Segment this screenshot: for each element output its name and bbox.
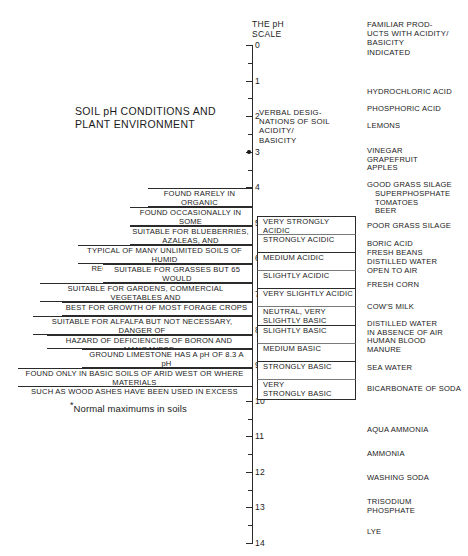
familiar-product-entry: FRESH CORN (367, 281, 419, 290)
verbal-designation-box: VERY STRONGLY ACIDIC (257, 216, 356, 234)
soil-condition-block: SUITABLE FOR GARDENS, COMMERCIAL VEGETAB… (40, 283, 252, 302)
familiar-product-entry: DISTILLED WATER IN ABSENCE OF AIR (367, 320, 443, 337)
familiar-product-entry: LYE (367, 528, 381, 537)
familiar-product-entry: SEA WATER (367, 364, 412, 373)
footnote: *Normal maximums in soils (70, 400, 187, 414)
ph-axis-line (252, 45, 253, 544)
familiar-products-column: HYDROCHLORIC ACIDPHOSPHORIC ACIDLEMONSVI… (367, 0, 468, 556)
verbal-designation-box: NEUTRAL, VERY SLIGHTLY BASIC (257, 306, 356, 325)
verbal-designation-box: STRONGLY BASIC (257, 361, 356, 379)
soil-conditions-column: FOUND RARELY IN ORGANIC SOIL SURFACE LAY… (0, 0, 252, 556)
familiar-product-entry: DISTILLED WATER OPEN TO AIR (367, 258, 437, 275)
familiar-product-entry: COW'S MILK (367, 303, 414, 312)
ph-scale-diagram: SOIL pH CONDITIONS AND PLANT ENVIRONMENT… (0, 0, 468, 556)
familiar-product-entry: WASHING SODA (367, 474, 429, 483)
soil-condition-block: SUITABLE FOR BLUEBERRIES, AZALEAS, AND R… (130, 226, 252, 245)
soil-condition-block: HAZARD OF DEFICIENCIES OF BORON AND MANG… (47, 335, 252, 349)
familiar-product-entry: BICARBONATE OF SODA (367, 385, 461, 394)
soil-condition-block: TYPICAL OF MANY UNLIMITED SOILS OF HUMID… (78, 245, 252, 264)
soil-condition-block: GROUND LIMESTONE HAS A pH OF 8.3 A pH AB… (82, 349, 252, 368)
familiar-product-entry: AQUA AMMONIA (367, 426, 428, 435)
familiar-product-entry: HYDROCHLORIC ACID (367, 88, 452, 97)
familiar-product-entry: TRISODIUM PHOSPHATE (367, 498, 415, 515)
familiar-product-entry: LEMONS (367, 122, 400, 131)
familiar-product-entry: AMMONIA (367, 450, 405, 459)
verbal-designation-box: MEDIUM BASIC (257, 343, 356, 361)
verbal-designation-box: STRONGLY ACIDIC (257, 234, 356, 252)
verbal-designation-box: SLIGHTLY BASIC (257, 325, 356, 343)
soil-condition-block: FOUND OCCASIONALLY IN SOME SOILS IN HUMI… (130, 207, 252, 226)
familiar-product-entry: SUPERPHOSPHATE TOMATOES BEER (367, 190, 450, 216)
verbal-designation-box: SLIGHTLY ACIDIC (257, 270, 356, 288)
familiar-product-entry: MANURE (367, 346, 401, 355)
familiar-product-entry: BORIC ACID FRESH BEANS (367, 240, 423, 257)
soil-condition-block: SUITABLE FOR GRASSES BUT 65 WOULD BE BET… (103, 264, 252, 283)
soil-condition-block: BEST FOR GROWTH OF MOST FORAGE CROPS (62, 302, 252, 316)
verbal-designation-box: VERY SLIGHTLY ACIDIC (257, 288, 356, 306)
verbal-designation-box: VERY STRONGLY BASIC (257, 379, 356, 400)
soil-condition-block: FOUND ONLY IN BASIC SOILS OF ARID WEST O… (18, 368, 252, 387)
soil-condition-block: FOUND RARELY IN ORGANIC SOIL SURFACE LAY… (148, 188, 252, 207)
verbal-designation-box: MEDIUM ACIDIC (257, 252, 356, 270)
verbal-designations-column: VERY STRONGLY ACIDICSTRONGLY ACIDICMEDIU… (257, 0, 356, 556)
familiar-product-entry: PHOSPHORIC ACID (367, 105, 441, 114)
familiar-product-entry: POOR GRASS SILAGE (367, 222, 451, 231)
footnote-text: Normal maximums in soils (74, 403, 187, 414)
soil-condition-block: SUITABLE FOR ALFALFA BUT NOT NECESSARY, … (33, 316, 252, 335)
familiar-product-entry: VINEGAR GRAPEFRUIT APPLES (367, 147, 418, 173)
